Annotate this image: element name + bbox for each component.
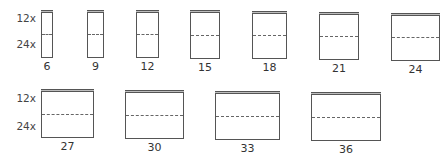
size-label: 21	[332, 62, 346, 75]
divider-line	[137, 34, 158, 35]
top-band	[391, 13, 440, 16]
top-band	[190, 10, 220, 13]
size-box-27	[41, 89, 94, 138]
row-label-12x-row2: 12x	[2, 92, 36, 104]
size-box-9	[87, 10, 104, 58]
size-box-6	[41, 10, 53, 58]
top-band	[136, 10, 159, 13]
top-band	[41, 89, 94, 92]
size-label: 30	[148, 141, 162, 154]
top-band	[41, 10, 53, 13]
row-label-24x: 24x	[2, 38, 36, 50]
row-label-24x-row2: 24x	[2, 120, 36, 132]
size-label: 9	[92, 60, 99, 73]
size-box-18	[252, 11, 287, 59]
top-band	[215, 91, 280, 94]
divider-line	[126, 115, 183, 116]
top-band	[87, 10, 104, 13]
size-label: 24	[409, 63, 423, 76]
divider-line	[42, 34, 52, 35]
top-band	[252, 11, 287, 14]
row-label-12x: 12x	[2, 12, 36, 24]
size-label: 33	[241, 142, 255, 155]
size-box-36	[311, 92, 381, 141]
size-label: 6	[44, 60, 51, 73]
size-label: 27	[61, 140, 75, 153]
divider-line	[42, 114, 93, 115]
divider-line	[253, 35, 286, 36]
size-label: 15	[198, 61, 212, 74]
divider-line	[312, 117, 380, 118]
top-band	[319, 12, 359, 15]
size-box-21	[319, 12, 359, 60]
size-label: 36	[339, 143, 353, 156]
divider-line	[392, 37, 439, 38]
size-label: 18	[263, 61, 277, 74]
divider-line	[320, 36, 358, 37]
top-band	[125, 90, 184, 93]
size-box-15	[190, 10, 220, 59]
divider-line	[216, 116, 279, 117]
size-box-12	[136, 10, 159, 58]
size-box-33	[215, 91, 280, 140]
size-label: 12	[141, 60, 155, 73]
divider-line	[88, 34, 103, 35]
divider-line	[191, 35, 219, 36]
size-box-24	[391, 13, 440, 61]
top-band	[311, 92, 381, 95]
size-box-30	[125, 90, 184, 139]
